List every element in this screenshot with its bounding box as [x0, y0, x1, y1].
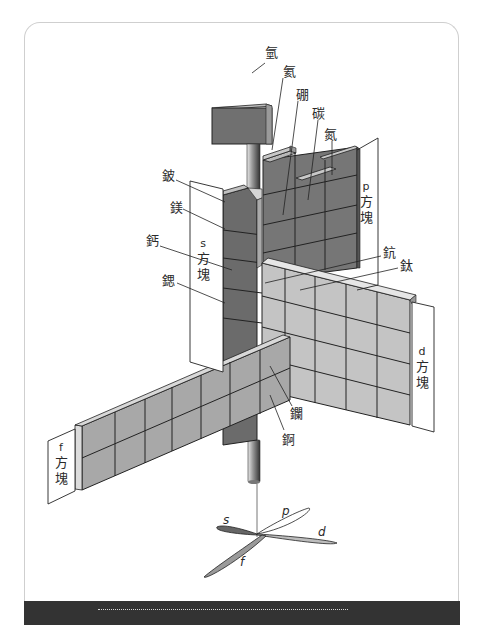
label-actinium: 錒 — [282, 432, 295, 447]
label-calcium: 鈣 — [146, 233, 159, 248]
label-carbon: 碳 — [312, 106, 325, 121]
label-lanthanum: 鑭 — [290, 406, 303, 421]
label-scandium: 鈧 — [383, 245, 396, 260]
f-orbital-lobe — [204, 535, 266, 577]
orbital-label-f: f — [240, 555, 246, 569]
label-beryllium: 鈹 — [162, 168, 175, 183]
label-boron: 硼 — [296, 87, 309, 102]
svg-text:塊: 塊 — [416, 375, 429, 390]
p-block-label: p 方 塊 — [360, 180, 373, 225]
svg-text:塊: 塊 — [360, 210, 373, 225]
label-magnesium: 鎂 — [170, 200, 183, 215]
svg-text:d: d — [419, 345, 426, 358]
p-block-wall — [263, 146, 360, 280]
orbital-label-p: p — [281, 504, 290, 518]
footer-dotted-rule — [98, 609, 348, 610]
svg-text:方: 方 — [360, 194, 373, 209]
label-nitrogen: 氮 — [324, 127, 337, 142]
orbital-label-d: d — [318, 525, 326, 539]
svg-text:塊: 塊 — [197, 267, 210, 282]
svg-text:p: p — [363, 180, 370, 193]
svg-text:方: 方 — [416, 359, 429, 374]
label-titanium: 鈦 — [400, 258, 413, 273]
label-strontium: 鍶 — [162, 273, 175, 288]
hydrogen-block — [212, 104, 272, 144]
periodic-blocks-diagram: 氫 氦 硼 碳 氮 鈹 鎂 鈣 鍶 鈧 鈦 鑭 錒 s 方 塊 p 方 塊 d … — [0, 0, 480, 625]
svg-text:塊: 塊 — [55, 471, 68, 486]
label-helium: 氦 — [283, 64, 296, 79]
orbital-label-s: s — [223, 513, 229, 527]
footer-bar — [24, 601, 460, 625]
svg-text:s: s — [200, 237, 206, 250]
svg-text:方: 方 — [197, 251, 210, 266]
label-hydrogen: 氫 — [265, 45, 278, 60]
svg-text:方: 方 — [55, 455, 68, 470]
s-orbital-lobe — [217, 526, 257, 535]
